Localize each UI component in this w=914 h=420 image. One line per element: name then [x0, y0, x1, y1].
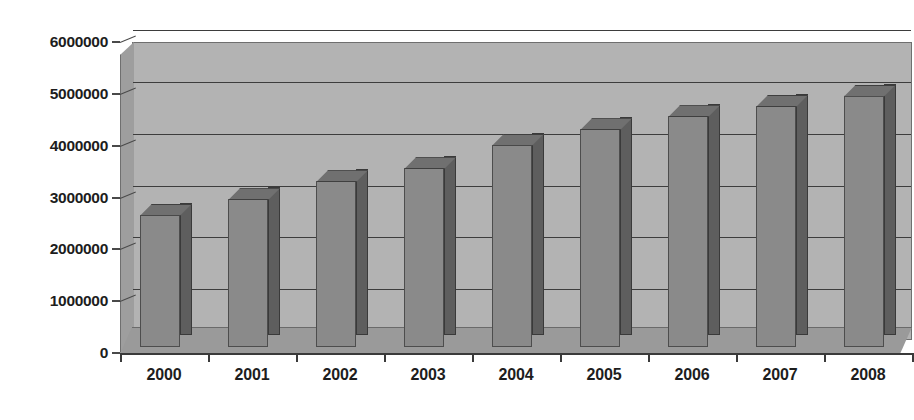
y-axis-label: 4000000 — [50, 137, 108, 155]
x-axis-label-2008: 2008 — [851, 366, 886, 384]
y-axis-label: 5000000 — [50, 85, 108, 103]
x-axis-label-2002: 2002 — [323, 366, 358, 384]
x-axis-label-2007: 2007 — [763, 366, 798, 384]
x-axis-label-2000: 2000 — [147, 366, 182, 384]
bar-2007 — [756, 100, 796, 347]
x-axis-label-2001: 2001 — [235, 366, 270, 384]
bar-side-face — [708, 104, 720, 335]
bar-side-face — [444, 156, 456, 335]
bar-front-face — [756, 106, 796, 347]
bar-chart: 0100000020000003000000400000050000006000… — [0, 0, 914, 420]
bar-front-face — [228, 199, 268, 347]
bar-front-face — [844, 96, 884, 347]
x-axis-tick — [472, 353, 474, 362]
y-axis-label: 3000000 — [50, 189, 108, 207]
bar-front-face — [668, 116, 708, 347]
bar-front-face — [492, 145, 532, 347]
bar-2000 — [140, 209, 180, 347]
y-axis-label: 1000000 — [50, 292, 108, 310]
x-axis-label-2003: 2003 — [411, 366, 446, 384]
x-axis-label-2004: 2004 — [499, 366, 534, 384]
y-axis-tick — [112, 352, 120, 354]
x-axis-tick — [560, 353, 562, 362]
x-axis-label-2005: 2005 — [587, 366, 622, 384]
y-axis-label: 0 — [100, 344, 108, 362]
plot-area — [120, 42, 912, 353]
bar-side-face — [620, 117, 632, 335]
bar-front-face — [316, 181, 356, 347]
x-axis-tick — [736, 353, 738, 362]
bar-side-face — [180, 203, 192, 335]
x-axis-tick — [296, 353, 298, 362]
bar-2001 — [228, 193, 268, 347]
bar-2002 — [316, 175, 356, 347]
x-axis-tick — [648, 353, 650, 362]
bar-front-face — [580, 129, 620, 347]
bar-2004 — [492, 139, 532, 347]
x-axis-label-2006: 2006 — [675, 366, 710, 384]
y-axis-label: 6000000 — [50, 33, 108, 51]
bar-series — [120, 42, 912, 353]
x-axis-tick — [208, 353, 210, 362]
bar-side-face — [796, 94, 808, 335]
bar-2008 — [844, 90, 884, 347]
bar-2005 — [580, 123, 620, 347]
y-axis-label: 2000000 — [50, 240, 108, 258]
gridline — [133, 30, 911, 31]
bar-2003 — [404, 162, 444, 347]
bar-side-face — [268, 187, 280, 335]
x-axis-labels: 200020012002200320042005200620072008 — [120, 366, 912, 400]
bar-side-face — [884, 84, 896, 335]
y-axis: 0100000020000003000000400000050000006000… — [0, 0, 118, 420]
bar-front-face — [140, 215, 180, 347]
x-axis-tick — [824, 353, 826, 362]
bar-side-face — [356, 169, 368, 335]
bar-2006 — [668, 110, 708, 347]
x-axis-line — [120, 353, 912, 355]
bar-side-face — [532, 133, 544, 335]
bar-front-face — [404, 168, 444, 347]
x-axis-tick — [384, 353, 386, 362]
x-axis-tick — [120, 353, 122, 362]
